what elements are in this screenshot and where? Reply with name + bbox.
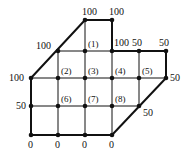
boundary-value-label: 100 — [9, 72, 24, 83]
node-dot — [83, 104, 88, 109]
grid-diagram: 100100100(1)1005050100(2)(3)(4)(5)5050(6… — [0, 0, 192, 155]
node-dot — [56, 76, 61, 81]
boundary-value-label: 50 — [143, 107, 153, 118]
node-dot — [110, 133, 115, 138]
boundary-value-label: 100 — [114, 37, 129, 48]
node-dot — [83, 18, 88, 23]
node-dot — [164, 76, 169, 81]
node-dot — [164, 49, 169, 54]
node-dot — [29, 133, 34, 138]
boundary-value-label: 50 — [132, 37, 142, 48]
node-dot — [110, 76, 115, 81]
boundary-value-label: 100 — [36, 40, 51, 51]
node-dot — [137, 104, 142, 109]
node-dot — [83, 76, 88, 81]
boundary-value-label: 100 — [82, 6, 97, 17]
node-dot — [110, 18, 115, 23]
interior-node-label: (5) — [142, 66, 153, 76]
interior-node-label: (2) — [61, 66, 72, 76]
node-dot — [137, 76, 142, 81]
interior-node-label: (7) — [88, 94, 99, 104]
boundary-value-label: 0 — [28, 139, 33, 150]
interior-node-label: (1) — [88, 39, 99, 49]
boundary-value-label: 50 — [159, 37, 169, 48]
interior-node-label: (8) — [115, 94, 126, 104]
boundary-value-label: 50 — [170, 72, 180, 83]
boundary-value-label: 100 — [109, 6, 124, 17]
boundary-value-label: 50 — [16, 100, 26, 111]
node-dot — [83, 133, 88, 138]
interior-node-label: (6) — [61, 94, 72, 104]
boundary-value-label: 0 — [55, 139, 60, 150]
node-dot — [110, 49, 115, 54]
node-dot — [56, 49, 61, 54]
node-dot — [56, 104, 61, 109]
node-dot — [29, 76, 34, 81]
interior-node-label: (4) — [115, 66, 126, 76]
node-dot — [56, 133, 61, 138]
interior-node-label: (3) — [88, 66, 99, 76]
node-dot — [29, 104, 34, 109]
node-dot — [110, 104, 115, 109]
boundary-value-label: 0 — [82, 139, 87, 150]
node-dot — [137, 49, 142, 54]
boundary-value-label: 0 — [109, 139, 114, 150]
node-dot — [83, 49, 88, 54]
